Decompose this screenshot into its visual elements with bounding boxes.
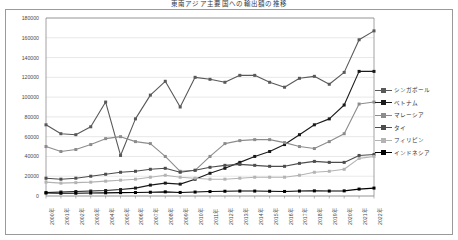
data-point-marker	[373, 29, 376, 32]
data-point-marker	[59, 150, 62, 153]
data-point-marker	[164, 190, 167, 193]
data-point-marker	[134, 178, 137, 181]
data-point-marker	[283, 176, 286, 179]
data-point-marker	[149, 168, 152, 171]
x-tick-label: 2009年	[182, 208, 189, 225]
data-point-marker	[238, 190, 241, 193]
data-point-marker	[268, 81, 271, 84]
data-point-marker	[119, 191, 122, 194]
x-tick-label: 2019年	[331, 208, 338, 225]
legend-swatch-icon	[375, 112, 392, 119]
data-point-marker	[283, 165, 286, 168]
data-point-marker	[373, 187, 376, 190]
x-tick-label: 2017年	[301, 208, 308, 225]
legend-item-label: マレーシア	[394, 111, 424, 119]
data-point-marker	[298, 133, 301, 136]
data-point-marker	[104, 180, 107, 183]
legend-item[interactable]: タイ	[375, 122, 455, 135]
data-point-marker	[149, 94, 152, 97]
data-point-marker	[328, 83, 331, 86]
data-point-marker	[134, 187, 137, 190]
y-tick-label: 20000	[9, 173, 39, 179]
legend-swatch-icon	[375, 124, 392, 131]
data-point-marker	[89, 143, 92, 146]
data-point-marker	[298, 190, 301, 193]
x-tick-label: 2021年	[361, 208, 368, 225]
data-point-marker	[328, 140, 331, 143]
data-point-marker	[59, 192, 62, 195]
legend-item[interactable]: マレーシア	[375, 109, 455, 122]
data-point-marker	[45, 123, 48, 126]
data-point-marker	[45, 192, 48, 195]
data-point-marker	[119, 188, 122, 191]
chart-title: 東南アジア主要国への輸出額の推移	[0, 0, 458, 8]
data-point-marker	[149, 191, 152, 194]
data-point-marker	[74, 133, 77, 136]
data-point-marker	[134, 191, 137, 194]
data-point-marker	[45, 177, 48, 180]
data-point-marker	[164, 182, 167, 185]
data-point-marker	[223, 167, 226, 170]
data-point-marker	[253, 155, 256, 158]
data-point-marker	[89, 125, 92, 128]
data-point-marker	[194, 177, 197, 180]
data-point-marker	[179, 176, 182, 179]
data-point-marker	[373, 70, 376, 73]
y-tick-label: 180000	[9, 15, 39, 21]
data-point-marker	[179, 183, 182, 186]
data-point-marker	[149, 142, 152, 145]
data-point-marker	[328, 170, 331, 173]
legend-item[interactable]: フィリピン	[375, 134, 455, 147]
data-point-marker	[209, 172, 212, 175]
legend-swatch-icon	[375, 87, 392, 94]
data-point-marker	[238, 163, 241, 166]
data-point-marker	[253, 190, 256, 193]
data-point-marker	[119, 179, 122, 182]
x-tick-label: 2013年	[242, 208, 249, 225]
data-point-marker	[209, 178, 212, 181]
legend-item-label: ベトナム	[394, 99, 418, 107]
x-tick-label: 2022年	[376, 208, 383, 225]
data-point-marker	[209, 155, 212, 158]
legend-swatch-icon	[375, 149, 392, 156]
chart-screenshot: 東南アジア主要国への輸出額の推移 18000016000014000012000…	[0, 0, 458, 240]
data-point-marker	[223, 190, 226, 193]
legend-item[interactable]: インドネシア	[375, 147, 455, 160]
data-point-marker	[209, 166, 212, 169]
data-series-group	[45, 29, 376, 194]
data-point-marker	[328, 190, 331, 193]
x-tick-label: 2011年	[212, 209, 219, 225]
legend-item-label: タイ	[394, 124, 406, 132]
chart-legend: シンガポールベトナムマレーシアタイフィリピンインドネシア	[375, 84, 455, 159]
data-point-marker	[358, 103, 361, 106]
data-point-marker	[74, 192, 77, 195]
data-point-marker	[194, 191, 197, 194]
legend-item-label: インドネシア	[394, 149, 429, 157]
data-point-marker	[209, 78, 212, 81]
data-point-marker	[179, 171, 182, 174]
data-point-marker	[89, 175, 92, 178]
data-point-marker	[119, 135, 122, 138]
data-point-marker	[358, 38, 361, 41]
x-tick-label: 2018年	[316, 208, 323, 225]
data-point-marker	[268, 190, 271, 193]
data-point-marker	[179, 106, 182, 109]
data-point-marker	[358, 70, 361, 73]
data-point-marker	[209, 190, 212, 193]
data-point-marker	[313, 171, 316, 174]
data-series	[45, 29, 376, 157]
data-point-marker	[268, 150, 271, 153]
data-point-marker	[343, 71, 346, 74]
data-point-marker	[194, 169, 197, 172]
data-point-marker	[238, 74, 241, 77]
data-point-marker	[298, 162, 301, 165]
data-point-marker	[298, 174, 301, 177]
y-tick-label: 80000	[9, 114, 39, 120]
data-point-marker	[283, 86, 286, 89]
data-point-marker	[194, 76, 197, 79]
data-point-marker	[253, 176, 256, 179]
data-point-marker	[298, 77, 301, 80]
legend-item[interactable]: ベトナム	[375, 97, 455, 110]
x-tick-label: 2012年	[227, 208, 234, 225]
legend-item[interactable]: シンガポール	[375, 84, 455, 97]
